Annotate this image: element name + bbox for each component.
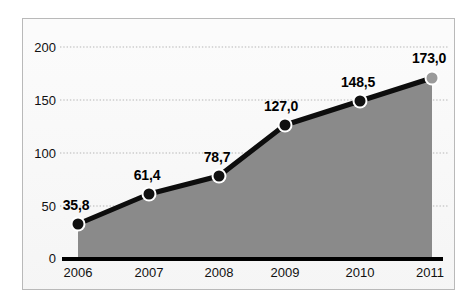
x-tick-label-2009: 2009 (260, 266, 310, 280)
chart-screenshot: 200 150 100 50 0 2006 2007 2008 2009 201… (0, 0, 473, 306)
x-tick-label-2008: 2008 (194, 266, 244, 280)
data-point-marker-2011 (427, 73, 438, 84)
y-tick-label-150: 150 (22, 94, 56, 107)
data-label-2010: 148,5 (328, 75, 388, 90)
y-tick-label-0: 0 (22, 252, 56, 265)
data-label-2006: 35,8 (46, 198, 106, 213)
data-point-marker-2009 (280, 120, 291, 131)
data-label-2008: 78,7 (187, 150, 247, 165)
x-tick-label-2007: 2007 (124, 266, 174, 280)
data-label-2009: 127,0 (251, 99, 311, 114)
y-tick-label-200: 200 (22, 41, 56, 54)
data-point-marker-2008 (214, 171, 225, 182)
x-tick-label-2011: 2011 (405, 266, 455, 280)
y-tick-label-100: 100 (22, 147, 56, 160)
data-label-2007: 61,4 (117, 168, 177, 183)
x-tick-label-2006: 2006 (53, 266, 103, 280)
data-point-marker-2007 (144, 189, 155, 200)
data-point-marker-2010 (355, 96, 366, 107)
data-label-2011: 173,0 (399, 51, 459, 66)
x-tick-label-2010: 2010 (335, 266, 385, 280)
data-point-marker-2006 (73, 219, 84, 230)
